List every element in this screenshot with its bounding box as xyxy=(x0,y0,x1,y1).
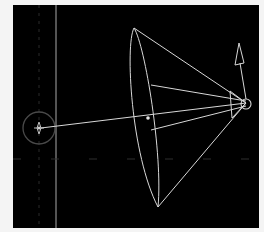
3d-viewport[interactable]: 3D Viewport - Spot Light xyxy=(13,5,259,228)
spot-direction-line xyxy=(41,103,246,128)
target-handle[interactable] xyxy=(23,112,55,144)
cone-center-dot-icon xyxy=(146,116,150,120)
spot-cone-wireframe[interactable] xyxy=(130,28,246,207)
up-vector-arrow-icon[interactable] xyxy=(235,43,246,99)
cone-side-bottom xyxy=(158,103,246,207)
